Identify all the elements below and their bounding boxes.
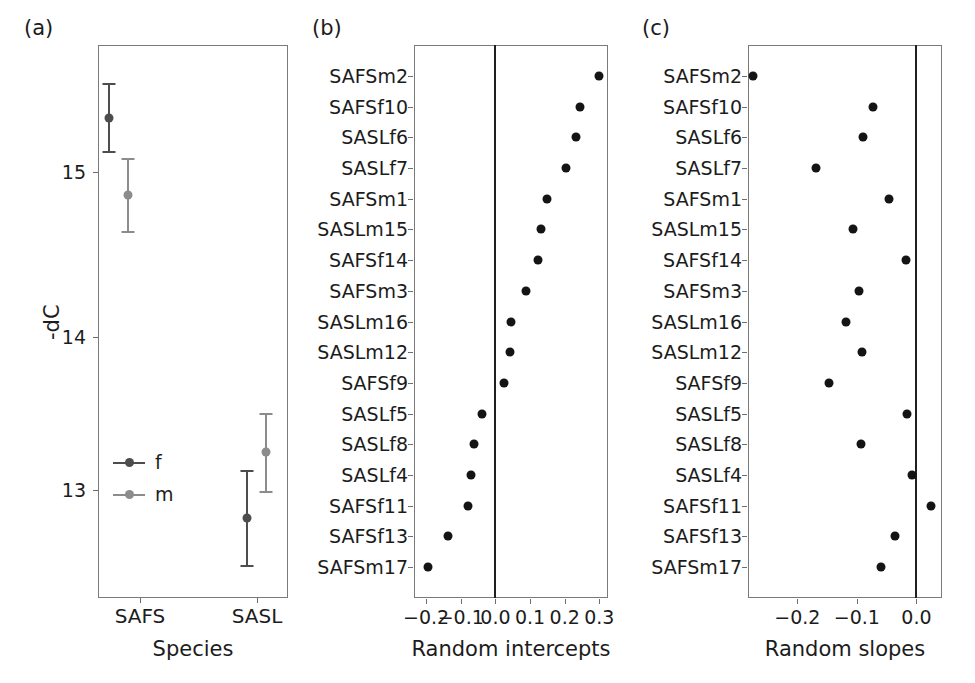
y-tick-mark	[742, 76, 747, 77]
y-tick-mark	[408, 536, 413, 537]
data-point	[505, 348, 514, 357]
data-point	[849, 225, 858, 234]
y-tick-mark	[408, 260, 413, 261]
panel-b-y-category-labels: SAFSm2SAFSf10SASLf6SASLf7SAFSm1SASLm15SA…	[318, 0, 408, 683]
data-point	[478, 409, 487, 418]
data-point	[890, 532, 899, 541]
figure-container: (a) -dC Species 15 14 13 SAFS SASL	[0, 0, 975, 683]
data-point	[855, 286, 864, 295]
y-category-label: SASLm16	[651, 311, 742, 333]
x-tick-label: 0.2	[550, 606, 580, 628]
data-point	[842, 317, 851, 326]
y-category-label: SASLm15	[317, 218, 408, 240]
panel-b-x-axis-title: Random intercepts	[411, 637, 610, 661]
data-point	[927, 501, 936, 510]
panel-a-xtick-safs	[140, 598, 141, 603]
panel-a-ytick-label-15: 15	[48, 161, 86, 183]
y-tick-mark	[742, 444, 747, 445]
legend-dot-f	[125, 458, 134, 467]
y-category-label: SAFSf10	[329, 96, 408, 118]
panel-a-ytick-label-14: 14	[48, 326, 86, 348]
data-point	[521, 286, 530, 295]
y-category-label: SASLf4	[675, 464, 742, 486]
data-point	[537, 225, 546, 234]
x-tick-mark	[495, 599, 496, 604]
y-tick-mark	[742, 291, 747, 292]
legend-label-m: m	[155, 483, 174, 505]
y-category-label: SASLf8	[341, 433, 408, 455]
data-point	[575, 102, 584, 111]
y-category-label: SAFSf9	[675, 372, 742, 394]
y-tick-mark	[742, 322, 747, 323]
y-category-label: SAFSf11	[329, 495, 408, 517]
x-tick-label: 0.0	[480, 606, 510, 628]
y-category-label: SAFSm1	[663, 188, 742, 210]
x-tick-label: 0.0	[901, 606, 931, 628]
y-category-label: SAFSm3	[663, 280, 742, 302]
y-tick-mark	[742, 414, 747, 415]
y-tick-mark	[408, 414, 413, 415]
panel-a-ytick-13	[93, 490, 98, 491]
panel-a-legend: f m	[113, 452, 193, 506]
data-point	[868, 102, 877, 111]
data-point	[857, 440, 866, 449]
data-point	[902, 409, 911, 418]
y-tick-mark	[408, 168, 413, 169]
y-category-label: SASLf7	[675, 157, 742, 179]
x-tick-mark	[565, 599, 566, 604]
y-tick-mark	[408, 291, 413, 292]
y-category-label: SASLf4	[341, 464, 408, 486]
data-point	[811, 164, 820, 173]
y-tick-mark	[408, 567, 413, 568]
y-tick-mark	[742, 506, 747, 507]
y-tick-mark	[742, 168, 747, 169]
panel-a-category-label-safs: SAFS	[115, 604, 166, 628]
y-category-label: SASLf8	[675, 433, 742, 455]
y-tick-mark	[408, 199, 413, 200]
data-point	[543, 194, 552, 203]
y-tick-mark	[742, 137, 747, 138]
panel-a-errorbar-safs-f	[102, 83, 116, 153]
y-category-label: SAFSf11	[663, 495, 742, 517]
y-category-label: SASLf7	[341, 157, 408, 179]
data-point	[572, 133, 581, 142]
legend-label-f: f	[155, 451, 162, 473]
y-category-label: SASLm12	[651, 341, 742, 363]
y-tick-mark	[742, 567, 747, 568]
panel-a-ytick-14	[93, 337, 98, 338]
y-tick-mark	[742, 475, 747, 476]
y-category-label: SAFSf10	[663, 96, 742, 118]
legend-row-f: f	[113, 452, 193, 474]
y-tick-mark	[408, 475, 413, 476]
legend-dot-m	[125, 490, 134, 499]
x-tick-label: 0.3	[584, 606, 614, 628]
data-point	[857, 348, 866, 357]
x-tick-mark	[857, 599, 858, 604]
y-tick-mark	[408, 322, 413, 323]
data-point	[902, 256, 911, 265]
data-point	[469, 440, 478, 449]
data-point	[824, 378, 833, 387]
panel-a-xtick-sasl	[257, 598, 258, 603]
panel-a-errorbar-sasl-m	[259, 413, 273, 493]
panel-a-category-label-sasl: SASL	[232, 604, 283, 628]
y-tick-mark	[742, 199, 747, 200]
y-category-label: SAFSf14	[663, 249, 742, 271]
x-tick-label: −0.1	[438, 606, 484, 628]
y-tick-mark	[408, 229, 413, 230]
panel-a-tag: (a)	[24, 16, 53, 40]
panel-a-errorbar-safs-m	[121, 158, 135, 233]
data-point	[464, 501, 473, 510]
x-tick-label: −0.2	[774, 606, 820, 628]
y-tick-mark	[408, 444, 413, 445]
y-category-label: SAFSf13	[329, 525, 408, 547]
y-category-label: SAFSf14	[329, 249, 408, 271]
data-point	[499, 378, 508, 387]
y-category-label: SAFSm17	[651, 556, 742, 578]
data-point	[507, 317, 516, 326]
x-tick-mark	[530, 599, 531, 604]
data-point	[594, 72, 603, 81]
x-tick-mark	[426, 599, 427, 604]
data-point	[876, 563, 885, 572]
data-point	[907, 470, 916, 479]
